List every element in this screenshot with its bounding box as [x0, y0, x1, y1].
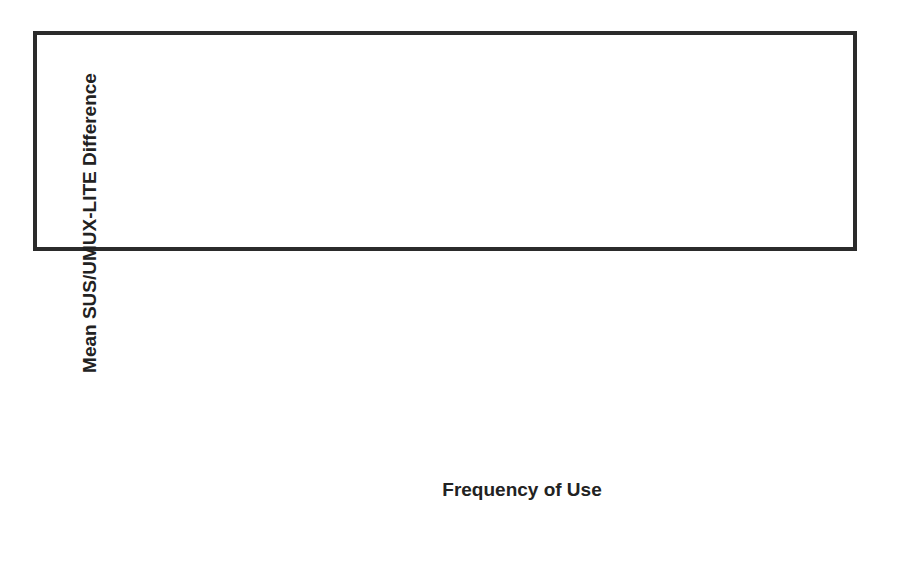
x-axis-title: Frequency of Use: [442, 479, 601, 500]
y-axis-title: Mean SUS/UMUX-LITE Difference: [79, 73, 100, 373]
chart-border: [35, 33, 855, 249]
line-chart: Mean SUS/UMUX-LITE Difference Frequency …: [0, 0, 923, 572]
chart-frame: [35, 33, 857, 249]
